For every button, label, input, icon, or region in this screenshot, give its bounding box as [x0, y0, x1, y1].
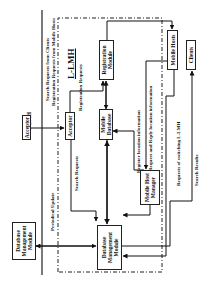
mobile-database-node: Mobile Database	[99, 109, 113, 140]
label-search-requests: Search Requests	[74, 156, 80, 191]
acceptor-outer-node: Acceptor	[22, 115, 31, 140]
clients-node: Clients	[186, 40, 196, 70]
l-lmh-label: L-LMH	[66, 49, 76, 80]
label-registration-requests: Registration Requests	[78, 64, 84, 111]
dbm-inner-node: Database Management Module	[97, 225, 122, 270]
label-registration-requests-from-mobile-hosts: Registration Requests from Mobile Hosts	[51, 18, 57, 106]
label-register-location-information: Register location information	[136, 110, 142, 173]
acceptor-inner-node: Acceptor	[65, 112, 75, 140]
label-search-results: Search Results	[194, 155, 200, 186]
mobile-host-manager-node: Mobile Host Manager	[140, 170, 160, 205]
diagram-canvas: U-LMH L-LMH Search Requests from Clients…	[0, 0, 214, 291]
label-search-requests-from-clients: Search Requests from Clients	[45, 38, 51, 101]
label-periodical-update: Periodical Update	[50, 193, 56, 231]
label-requests-switching: Requests of switching L-LMH	[176, 122, 182, 186]
registration-module-node: Registration Module	[99, 40, 114, 80]
dbm-outer-node: Database Management Module	[12, 222, 36, 260]
label-request-reply-location: Request and Reply location information	[148, 86, 154, 171]
diagram-stage: U-LMH L-LMH Search Requests from Clients…	[0, 0, 214, 291]
mobile-hosts-node: Mobile Hosts	[167, 30, 178, 70]
